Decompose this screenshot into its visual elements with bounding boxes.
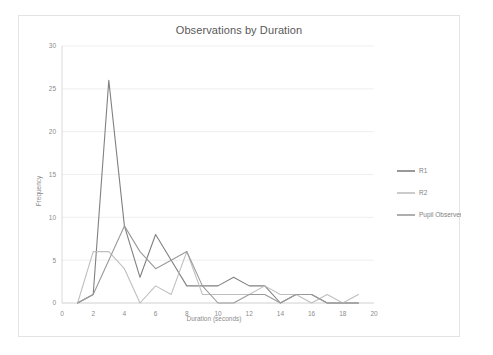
y-axis-label: Frequency <box>35 175 43 206</box>
x-tick-label: 6 <box>154 310 158 317</box>
x-tick-label: 4 <box>123 310 127 317</box>
x-tick-label: 20 <box>370 310 378 317</box>
series-line-r2 <box>78 252 359 303</box>
y-tick-label: 5 <box>52 257 56 264</box>
chart-container: Observations by Duration 051015202530 02… <box>18 15 460 337</box>
data-series-group <box>78 80 359 303</box>
chart-legend: R1R2Pupil Observer <box>397 167 461 219</box>
x-tick-label: 14 <box>277 310 285 317</box>
y-tick-labels: 051015202530 <box>49 42 57 306</box>
legend-label-r1: R1 <box>419 167 428 174</box>
series-line-r1 <box>78 80 359 303</box>
y-tick-label: 0 <box>52 299 56 306</box>
series-line-pupil-observer <box>78 226 359 303</box>
legend-label-pupil-observer: Pupil Observer <box>419 211 461 219</box>
chart-plot: 051015202530 02468101214161820 R1R2Pupil… <box>19 16 461 338</box>
y-tick-label: 15 <box>49 171 57 178</box>
x-axis-label: Duration (seconds) <box>187 315 242 323</box>
legend-label-r2: R2 <box>419 189 428 196</box>
x-tick-label: 16 <box>308 310 316 317</box>
x-tick-label: 0 <box>60 310 64 317</box>
x-tick-label: 18 <box>339 310 347 317</box>
y-tick-label: 30 <box>49 42 57 49</box>
x-tick-label: 12 <box>246 310 254 317</box>
y-tick-label: 25 <box>49 85 57 92</box>
x-tick-label: 2 <box>91 310 95 317</box>
y-tick-label: 10 <box>49 214 57 221</box>
y-tick-label: 20 <box>49 128 57 135</box>
